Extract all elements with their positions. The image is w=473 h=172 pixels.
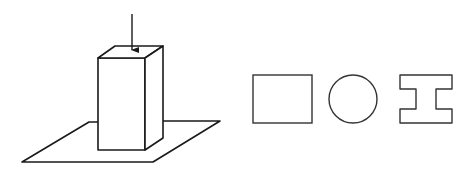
cross-sections [253, 75, 452, 123]
rectangular-section [253, 75, 312, 123]
i-beam-section [400, 75, 452, 123]
column-side-face [145, 46, 163, 150]
column-front-face [98, 58, 145, 150]
column [98, 46, 163, 150]
diagram-svg [0, 0, 473, 172]
circular-section [329, 75, 377, 123]
diagram-canvas [0, 0, 473, 172]
